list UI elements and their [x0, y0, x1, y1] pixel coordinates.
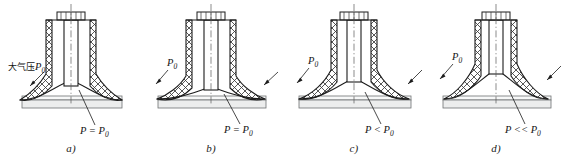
label-outside-pressure: P0: [307, 55, 318, 69]
panel-caption-d: d): [425, 142, 567, 154]
panel-caption-c: c): [283, 142, 425, 154]
panel-caption-b: b): [140, 142, 282, 154]
panel-c: P0 P < P0 c): [283, 0, 425, 160]
label-inside-pressure: P = P0: [223, 124, 253, 138]
label-outside-pressure: 大气压P0: [8, 61, 45, 75]
leader-outside-pressure: [156, 70, 168, 84]
suction-cup-pressure-figure: 大气压P0 P = P0 a): [0, 0, 567, 160]
label-inside-pressure: P < P0: [364, 124, 394, 138]
leader-right-arrow: [264, 72, 278, 85]
label-inside-pressure: P = P0: [79, 125, 109, 139]
support-plate: [443, 96, 551, 108]
leader-right-arrow: [547, 66, 561, 80]
panel-b: P0 P = P0 b): [140, 0, 282, 160]
panel-caption-a: a): [0, 142, 142, 154]
panel-a: 大气压P0 P = P0 a): [0, 0, 142, 160]
label-inside-pressure: P << P0: [504, 124, 541, 138]
leader-right-arrow: [408, 70, 422, 84]
leader-outside-pressure: [297, 68, 309, 83]
panel-d: P0 P << P0 d): [425, 0, 567, 160]
label-outside-pressure: P0: [451, 51, 462, 65]
leader-outside-pressure: [440, 64, 453, 79]
label-outside-pressure: P0: [166, 57, 177, 71]
